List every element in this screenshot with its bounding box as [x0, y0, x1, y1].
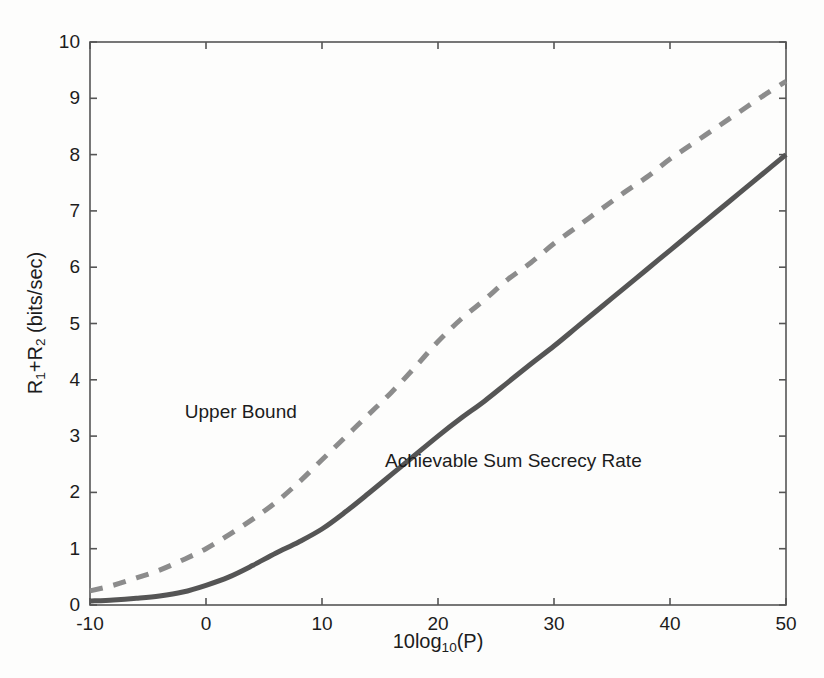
- y-axis-title-r1: R: [24, 380, 46, 394]
- x-tick-label: 40: [659, 613, 680, 635]
- x-axis-title: 10log10(P): [393, 630, 484, 655]
- y-tick-label: 3: [26, 425, 80, 447]
- series-line-2: [90, 155, 786, 601]
- x-tick-label: 30: [543, 613, 564, 635]
- axis-ticks: [90, 42, 786, 605]
- x-axis-title-pre: 10log: [393, 630, 442, 652]
- x-tick-label: 0: [201, 613, 212, 635]
- y-axis-title: R1+R2 (bits/sec): [24, 252, 49, 394]
- curve-annotation-2: Achievable Sum Secrecy Rate: [385, 450, 642, 472]
- y-tick-label: 2: [26, 481, 80, 503]
- plot-canvas: [0, 0, 824, 678]
- series-line-1: [90, 81, 786, 591]
- y-axis-title-r1-subscript: 1: [33, 372, 48, 380]
- x-axis-title-subscript: 10: [442, 640, 457, 655]
- axes-box: [90, 42, 786, 605]
- y-axis-title-plus-r2: +R: [24, 346, 46, 372]
- y-tick-label: 10: [26, 31, 80, 53]
- x-axis-title-post: (P): [457, 630, 484, 652]
- y-tick-label: 7: [26, 200, 80, 222]
- chart-figure: 012345678910 -1001020304050 Upper BoundA…: [0, 0, 824, 678]
- x-tick-label: -10: [76, 613, 103, 635]
- y-axis-title-r2-subscript: 2: [33, 338, 48, 346]
- x-tick-label: 50: [775, 613, 796, 635]
- y-axis-title-units: (bits/sec): [24, 252, 46, 339]
- data-series: [90, 81, 786, 601]
- y-tick-label: 8: [26, 144, 80, 166]
- y-tick-label: 0: [26, 594, 80, 616]
- x-tick-label: 10: [311, 613, 332, 635]
- axes-frame: [90, 42, 786, 605]
- curve-annotation-1: Upper Bound: [185, 401, 297, 423]
- y-tick-label: 1: [26, 538, 80, 560]
- y-tick-label: 9: [26, 87, 80, 109]
